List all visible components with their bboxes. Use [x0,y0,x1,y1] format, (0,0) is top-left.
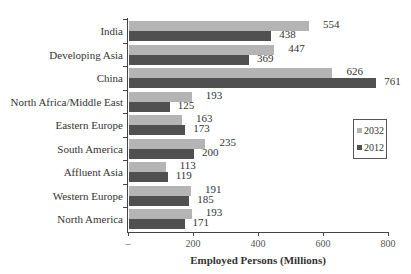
category-label: North America [57,213,123,225]
category-label: North Africa/Middle East [11,96,123,108]
x-axis-title: Employed Persons (Millions) [190,254,326,266]
x-tick-label: 400 [251,238,266,249]
legend-item-2012: 2012 [357,142,384,153]
legend-item-2032: 2032 [357,125,384,136]
bar-2012 [129,31,271,41]
x-tick-label: 600 [316,238,331,249]
bar-2012 [129,149,194,159]
category-label: Developing Asia [49,49,123,61]
x-tick [193,233,194,236]
bar-2032 [129,115,182,125]
bar-2032 [129,68,332,78]
legend-swatch-2012 [357,145,362,150]
bar-2012 [129,196,189,206]
category-label: Affluent Asia [64,166,123,178]
value-label: 125 [178,99,195,111]
bar-2012 [129,219,185,229]
value-label: 173 [193,122,210,134]
x-tick-label: 200 [186,238,201,249]
x-tick [323,233,324,236]
category-label: Eastern Europe [56,119,124,131]
legend-label: 2012 [364,142,384,153]
category-label: China [97,72,123,84]
x-tick [128,233,129,236]
y-tick [123,66,127,67]
bar-chart: India554438Developing Asia447369China626… [0,0,411,274]
y-tick [123,184,127,185]
y-tick [123,113,127,114]
value-label: 761 [384,75,401,87]
value-label: 119 [176,169,192,181]
bar-2012 [129,102,170,112]
bar-2032 [129,186,191,196]
y-tick [123,160,127,161]
y-tick [123,137,127,138]
bar-2012 [129,125,185,135]
value-label: 626 [346,65,363,77]
bar-2032 [129,162,166,172]
value-label: 369 [257,52,274,64]
y-tick [123,19,127,20]
y-axis [127,18,128,233]
value-label: 554 [323,18,340,30]
legend-label: 2032 [364,125,384,136]
bar-2032 [129,139,205,149]
category-label: South America [57,143,123,155]
category-label: Western Europe [53,190,123,202]
value-label: 447 [288,42,305,54]
bar-2032 [129,209,192,219]
bar-2012 [129,55,249,65]
value-label: 185 [197,193,214,205]
x-tick [258,233,259,236]
bar-2012 [129,78,376,88]
x-tick-label: – [126,238,131,249]
value-label: 438 [279,28,296,40]
legend-swatch-2032 [357,128,362,133]
x-tick [388,233,389,236]
legend: 2032 2012 [353,119,387,159]
y-tick [123,207,127,208]
category-label: India [100,25,123,37]
value-label: 235 [219,136,236,148]
y-tick [123,90,127,91]
value-label: 200 [202,146,219,158]
y-tick [123,43,127,44]
bar-2012 [129,172,168,182]
x-tick-label: 800 [381,238,396,249]
value-label: 171 [193,216,210,228]
value-label: 193 [206,89,223,101]
bar-2032 [129,45,274,55]
